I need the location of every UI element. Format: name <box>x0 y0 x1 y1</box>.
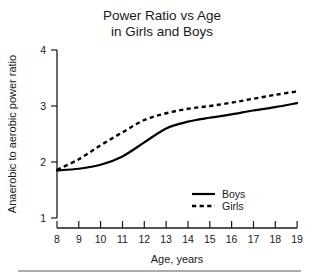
x-tick-label-12: 12 <box>138 233 150 245</box>
chart-figure: Power Ratio vs Age in Girls and Boys Ana… <box>0 0 319 279</box>
legend-label-girls: Girls <box>222 200 244 212</box>
x-tick-label-16: 16 <box>226 233 238 245</box>
x-axis: 8 9 10 11 12 13 14 15 16 17 18 19 Age, y… <box>54 221 303 265</box>
x-tick-label-8: 8 <box>54 233 60 245</box>
power-ratio-line-chart: Power Ratio vs Age in Girls and Boys Ana… <box>0 0 319 279</box>
y-tick-label-3: 3 <box>40 100 46 112</box>
plot-series <box>57 91 297 170</box>
x-tick-label-13: 13 <box>160 233 172 245</box>
x-tick-label-10: 10 <box>95 233 107 245</box>
y-tick-label-2: 2 <box>40 156 46 168</box>
legend-label-boys: Boys <box>222 188 245 200</box>
chart-title-line-1: Power Ratio vs Age <box>103 8 221 23</box>
x-tick-label-9: 9 <box>76 233 82 245</box>
chart-title-line-2: in Girls and Boys <box>111 24 213 39</box>
y-axis-label: Anaerobic to aerobic power ratio <box>6 55 18 213</box>
x-tick-label-15: 15 <box>204 233 216 245</box>
y-tick-label-4: 4 <box>40 44 46 56</box>
chart-legend: Boys Girls <box>192 188 245 212</box>
series-line-girls <box>57 91 297 169</box>
y-axis: 4 3 2 1 <box>40 44 57 224</box>
x-tick-label-18: 18 <box>269 233 281 245</box>
chart-title: Power Ratio vs Age in Girls and Boys <box>103 8 221 39</box>
series-line-boys <box>57 103 297 170</box>
y-tick-label-1: 1 <box>40 212 46 224</box>
x-tick-label-19: 19 <box>291 233 303 245</box>
x-tick-label-14: 14 <box>182 233 194 245</box>
x-tick-label-17: 17 <box>248 233 260 245</box>
x-axis-label: Age, years <box>151 253 204 265</box>
x-tick-label-11: 11 <box>117 233 128 245</box>
